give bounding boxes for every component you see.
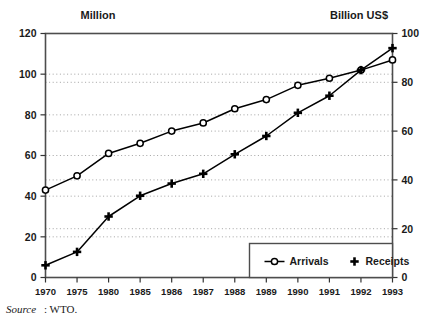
x-tick-label: 1980 <box>98 286 119 297</box>
marker-arrivals <box>169 128 175 134</box>
x-axis: 1970197519801985198619871988198919901991… <box>35 278 403 297</box>
right-tick-label: 100 <box>402 27 420 39</box>
left-tick-label: 20 <box>25 231 37 243</box>
left-tick-label: 100 <box>19 68 37 80</box>
series-line-arrivals <box>46 60 393 190</box>
marker-arrivals <box>263 96 269 102</box>
left-tick-label: 120 <box>19 27 37 39</box>
series-arrivals <box>42 57 395 193</box>
marker-arrivals <box>295 82 301 88</box>
marker-arrivals <box>200 120 206 126</box>
right-tick-label: 20 <box>402 223 414 235</box>
x-tick-label: 1991 <box>319 286 341 297</box>
right-axis-header: Billion US$ <box>330 9 388 21</box>
marker-arrivals <box>74 173 80 179</box>
source-value: : WTO. <box>44 303 77 315</box>
x-tick-label: 1989 <box>256 286 277 297</box>
left-tick-label: 40 <box>25 190 37 202</box>
legend-arrivals-marker <box>271 258 277 264</box>
x-tick-label: 1992 <box>350 286 371 297</box>
x-tick-label: 1985 <box>130 286 152 297</box>
x-tick-label: 1970 <box>35 286 56 297</box>
left-axis-header: Million <box>81 9 116 21</box>
series-line-receipts <box>46 48 393 265</box>
left-axis: 020406080100120 <box>19 27 46 283</box>
right-tick-label: 0 <box>402 271 408 283</box>
x-tick-label: 1987 <box>193 286 214 297</box>
x-tick-label: 1988 <box>224 286 245 297</box>
marker-arrivals <box>326 75 332 81</box>
left-tick-label: 0 <box>31 271 37 283</box>
marker-arrivals <box>137 140 143 146</box>
x-tick-label: 1975 <box>66 286 88 297</box>
left-tick-label: 80 <box>25 109 37 121</box>
right-tick-label: 80 <box>402 76 414 88</box>
x-tick-label: 1993 <box>382 286 403 297</box>
right-tick-label: 60 <box>402 125 414 137</box>
x-tick-label: 1990 <box>287 286 308 297</box>
marker-arrivals <box>389 57 395 63</box>
series-receipts <box>41 44 396 270</box>
source-note: Source: WTO. <box>6 303 77 315</box>
chart-legend: ArrivalsReceipts <box>250 244 410 278</box>
legend-receipts-label: Receipts <box>366 255 410 267</box>
gridlines <box>46 74 393 237</box>
marker-arrivals <box>42 187 48 193</box>
marker-arrivals <box>232 106 238 112</box>
tourism-line-chart: MillionBillion US$0204060801001200204060… <box>0 0 437 320</box>
chart-figure: MillionBillion US$0204060801001200204060… <box>0 0 437 320</box>
left-tick-label: 60 <box>25 149 37 161</box>
legend-arrivals-label: Arrivals <box>290 255 329 267</box>
right-tick-label: 40 <box>402 174 414 186</box>
x-tick-label: 1986 <box>161 286 182 297</box>
marker-arrivals <box>105 150 111 156</box>
right-axis: 020406080100 <box>393 27 420 283</box>
source-prefix: Source <box>6 303 36 315</box>
